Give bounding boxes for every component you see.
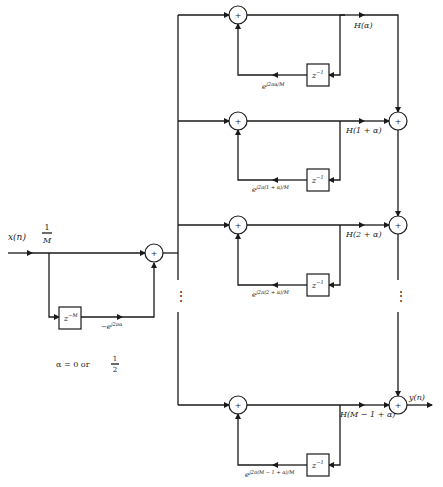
gain-numerator: 1 [44,223,49,232]
branch-1-feedback-tap [329,121,340,180]
resonator-branch-last: + H(M − 1 + α) z−1 ej2π(M − 1 + α)/M [178,396,395,479]
branch-1-delay-box [307,169,329,191]
comb-tap-line [49,253,59,317]
alpha-note-numerator: 1 [113,355,117,363]
branch-0-feedback-tap [329,15,340,75]
input-signal-label: x(n) [8,232,26,242]
input-section: x(n) 1 M z−M −ej2πα + [8,223,178,331]
branch-2-feedback-line [238,234,275,285]
branch-last-delay-box [307,454,329,476]
sum-adder-2-symbol: + [395,221,402,230]
branch-1-adder-symbol: + [235,117,242,126]
comb-coefficient-label: −ej2πα [101,321,123,331]
sum-adder-final-symbol: + [395,401,402,410]
comb-feedforward-line [120,263,154,317]
branch-0-adder-symbol: + [235,11,242,20]
alpha-note-text: α = 0 or [56,360,90,369]
branch-0-gain-label: H(α) [353,21,373,30]
branch-0-feedback-line [238,24,275,75]
branch-0-coefficient-label: ej2πα/M [262,81,285,91]
branch-2-coefficient-label: ej2π(2 + α)/M [252,289,290,299]
alpha-note-denominator: 2 [113,366,117,374]
frequency-sampling-filter-diagram: x(n) 1 M z−M −ej2πα + ⋮ + H(α) z−1 [0,0,443,487]
branch-last-coefficient-label: ej2π(M − 1 + α)/M [245,469,295,479]
branch-1-gain-label: H(1 + α) [345,126,382,135]
branch-1-feedback-line [238,130,275,180]
gain-denominator: M [42,236,52,245]
branch-1-coefficient-label: ej2π(1 + α)/M [252,184,290,194]
branch-2-delay-box [307,274,329,296]
sum-column-ellipsis: ⋮ [395,289,407,303]
left-bus-ellipsis: ⋮ [175,289,187,303]
comb-delay-box [59,307,81,329]
output-signal-label: y(n) [408,393,425,402]
comb-adder-symbol: + [151,249,158,258]
branch-2-adder-symbol: + [235,221,242,230]
left-bus: ⋮ [175,15,187,405]
branch-0-delay-box [307,64,329,86]
alpha-note: α = 0 or 1 2 [56,355,119,374]
sum-adder-1-symbol: + [395,117,402,126]
branch-last-gain-label: H(M − 1 + α) [339,410,395,419]
branch-last-feedback-tap [329,405,340,465]
branch-2-gain-label: H(2 + α) [345,230,382,239]
resonator-branch-0: + H(α) z−1 ej2πα/M [178,6,398,112]
resonator-branch-1: + H(1 + α) z−1 ej2π(1 + α)/M [178,112,389,194]
branch-last-adder-symbol: + [235,401,242,410]
branch-2-feedback-tap [329,225,340,285]
output-summation-column: + + ⋮ + y(n) [389,112,432,414]
resonator-branch-2: + H(2 + α) z−1 ej2π(2 + α)/M [178,216,389,299]
branch-last-feedback-line [238,414,275,465]
